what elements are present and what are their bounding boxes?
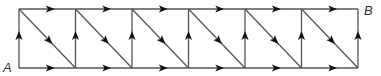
grid-path-diagram (0, 0, 381, 76)
diagonal-edge (189, 9, 246, 68)
diagonal-edge (76, 9, 133, 68)
diagonal-edge (19, 9, 76, 68)
diagonal-edge (132, 9, 189, 68)
edges-group (19, 9, 358, 68)
start-node-label: A (3, 61, 12, 74)
diagonal-edge (245, 9, 302, 68)
end-node-label: B (364, 4, 373, 17)
diagonal-edge (302, 9, 359, 68)
